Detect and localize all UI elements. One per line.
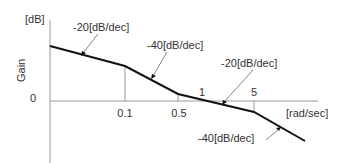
leader-4: [266, 129, 279, 140]
bode-gain-diagram: [dB] 0 Gain 0.1 0.5 1 5 [rad/sec] -20[dB…: [0, 0, 350, 163]
x-unit-label: [rad/sec]: [286, 107, 328, 119]
y-zero-label: 0: [30, 92, 36, 104]
slope-label-3: -20[dB/dec]: [221, 57, 277, 69]
leader-1: [83, 34, 98, 53]
slope-label-2: -40[dB/dec]: [147, 39, 203, 51]
y-axis-title: Gain: [15, 59, 27, 82]
arrowhead-2: [151, 74, 156, 79]
x-tick-0-1: 0.1: [117, 107, 132, 119]
slope-label-4: -40[dB/dec]: [198, 132, 254, 144]
y-unit-label: [dB]: [25, 13, 45, 25]
leader-3: [224, 70, 253, 102]
x-tick-5: 5: [251, 86, 257, 98]
x-tick-1: 1: [199, 86, 205, 98]
x-tick-0-5: 0.5: [171, 107, 186, 119]
slope-label-1: -20[dB/dec]: [73, 21, 129, 33]
leader-2: [153, 52, 167, 76]
